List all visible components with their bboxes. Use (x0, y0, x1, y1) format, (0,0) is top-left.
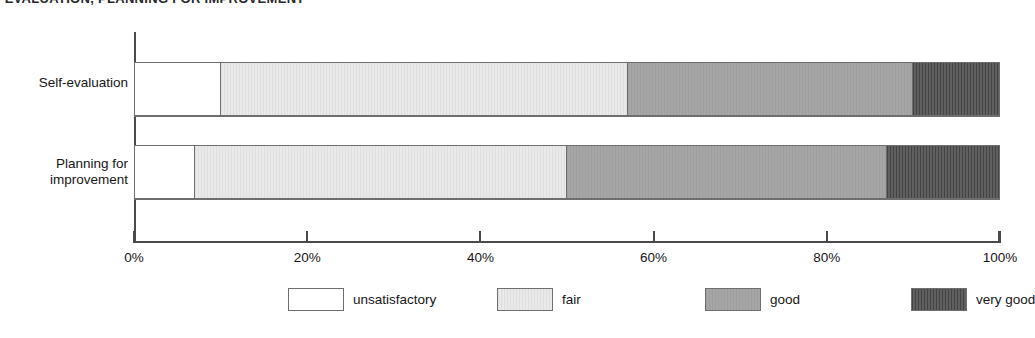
x-axis-tick (479, 231, 481, 243)
x-axis-tick (826, 231, 828, 243)
plot-area (134, 32, 1000, 243)
category-label-self-evaluation: Self-evaluation (0, 75, 128, 91)
bar-segment-very-good[interactable] (887, 145, 1000, 199)
category-label-line-1: Self-evaluation (0, 75, 128, 91)
legend-item-good[interactable]: good (705, 288, 800, 311)
legend-swatch-fair (497, 288, 553, 311)
stacked-bar-self-evaluation (134, 62, 1000, 116)
x-axis-tick-label: 80% (813, 250, 840, 265)
x-axis-tick-label: 20% (294, 250, 321, 265)
legend-item-fair[interactable]: fair (497, 288, 581, 311)
row-rule (134, 116, 1000, 117)
x-axis-tick-label: 100% (983, 250, 1018, 265)
x-axis-tick (306, 231, 308, 243)
bar-segment-good[interactable] (628, 62, 914, 116)
x-axis-tick-label: 0% (124, 250, 144, 265)
legend-label: very good (976, 292, 1035, 307)
legend-label: fair (562, 292, 581, 307)
legend-swatch-unsatisfactory (288, 288, 344, 311)
x-axis-tick-label: 40% (467, 250, 494, 265)
bar-segment-fair[interactable] (195, 145, 567, 199)
legend-swatch-good (705, 288, 761, 311)
x-axis-tick (133, 231, 135, 243)
x-axis-tick (653, 231, 655, 243)
x-axis-line (134, 241, 1000, 243)
legend-label: good (770, 292, 800, 307)
chart-legend: unsatisfactoryfairgoodvery good (0, 288, 1032, 318)
x-axis-tick-label: 60% (640, 250, 667, 265)
legend-item-very-good[interactable]: very good (911, 288, 1035, 311)
bar-segment-good[interactable] (567, 145, 887, 199)
bar-segment-very-good[interactable] (913, 62, 1000, 116)
row-rule (134, 199, 1000, 200)
category-label-planning-for-improvement: Planning for improvement (0, 156, 128, 188)
bar-segment-unsatisfactory[interactable] (134, 62, 221, 116)
category-label-line-1: Planning for (0, 156, 128, 172)
x-axis-tick (999, 231, 1001, 243)
legend-swatch-very-good (911, 288, 967, 311)
stacked-bar-planning-for-improvement (134, 145, 1000, 199)
bar-segment-fair[interactable] (221, 62, 628, 116)
legend-label: unsatisfactory (353, 292, 436, 307)
category-label-line-2: improvement (0, 172, 128, 188)
legend-item-unsatisfactory[interactable]: unsatisfactory (288, 288, 436, 311)
bar-segment-unsatisfactory[interactable] (134, 145, 195, 199)
